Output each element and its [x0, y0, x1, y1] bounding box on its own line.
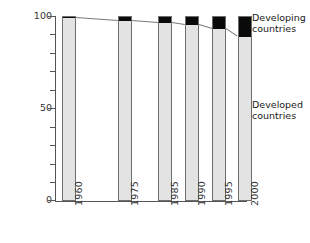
x-axis-label-1960: 1960 [73, 166, 84, 206]
bar-2000-developing-segment [239, 17, 251, 37]
connector-1985-1990 [172, 22, 185, 25]
percentage-stacked-bar-chart: Percentage 100 50 0 [0, 0, 310, 243]
legend-developing-line2: countries [252, 23, 306, 34]
y-tick-0 [48, 200, 55, 201]
connector-1990-1995 [199, 24, 212, 29]
legend-label-developing: Developing countries [252, 12, 306, 34]
x-axis-label-1975: 1975 [129, 166, 140, 206]
connector-1960-1975 [76, 17, 118, 21]
bar-1995-developing-segment [213, 17, 225, 29]
y-tick-50 [48, 108, 55, 109]
bar-1975-developing-segment [119, 17, 131, 21]
bar-1960-developing-segment [63, 17, 75, 18]
connector-1975-1985 [132, 20, 158, 23]
legend-developed-line1: Developed [252, 99, 303, 110]
x-axis-label-1995: 1995 [223, 166, 234, 206]
bar-1990-developing-segment [186, 17, 198, 25]
legend-label-developed: Developed countries [252, 99, 303, 121]
x-axis-label-1990: 1990 [196, 166, 207, 206]
y-tick-100 [48, 16, 55, 17]
x-axis-label-1985: 1985 [169, 166, 180, 206]
plot-area [55, 16, 250, 201]
bar-1985-developing-segment [159, 17, 171, 23]
legend-developing-line1: Developing [252, 12, 306, 23]
x-axis-label-2000: 2000 [249, 166, 260, 206]
legend-developed-line2: countries [252, 110, 303, 121]
connector-1995-2000 [225, 28, 238, 37]
